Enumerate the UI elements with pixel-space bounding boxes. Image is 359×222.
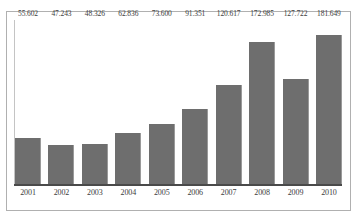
bar-rect	[249, 42, 275, 184]
x-axis-tick-label: 2005	[149, 188, 175, 197]
bar-group: 127.722	[283, 20, 309, 184]
bar-rect	[15, 138, 41, 184]
clipped-header-text	[8, 0, 208, 3]
bar-rect	[283, 79, 309, 184]
chart-page: 55.602 47.243 48.326 62.836 73.600	[0, 0, 359, 222]
bar-group: 172.985	[249, 20, 275, 184]
bar-group: 120.617	[216, 20, 242, 184]
bar-rect	[48, 145, 74, 184]
bar-group: 47.243	[48, 20, 74, 184]
x-axis-line	[14, 184, 342, 186]
bar-group: 73.600	[149, 20, 175, 184]
bar-value-label: 55.602	[18, 9, 38, 18]
bar-rect	[182, 109, 208, 184]
x-axis-labels: 2001 2002 2003 2004 2005 2006 2007 2008 …	[15, 188, 342, 206]
bar-value-label: 62.836	[118, 9, 138, 18]
x-axis-tick-label: 2008	[249, 188, 275, 197]
x-axis-tick-label: 2004	[115, 188, 141, 197]
bar-rect	[149, 124, 175, 184]
bar-group: 48.326	[82, 20, 108, 184]
bar-value-label: 48.326	[85, 9, 105, 18]
bar-group: 55.602	[15, 20, 41, 184]
bar-rect	[82, 144, 108, 184]
x-axis-tick-label: 2001	[15, 188, 41, 197]
bar-value-label: 73.600	[152, 9, 172, 18]
bar-series: 55.602 47.243 48.326 62.836 73.600	[15, 20, 342, 184]
bar-value-label: 47.243	[51, 9, 71, 18]
bar-value-label: 172.985	[250, 9, 274, 18]
x-axis-tick-label: 2007	[216, 188, 242, 197]
x-axis-tick-label: 2002	[48, 188, 74, 197]
bar-group: 181.649	[316, 20, 342, 184]
bar-rect	[216, 85, 242, 184]
bar-group: 91.351	[182, 20, 208, 184]
chart-frame: 55.602 47.243 48.326 62.836 73.600	[6, 11, 351, 211]
plot-area: 55.602 47.243 48.326 62.836 73.600	[7, 12, 350, 210]
bar-value-label: 91.351	[185, 9, 205, 18]
x-axis-tick-label: 2006	[182, 188, 208, 197]
bar-value-label: 120.617	[217, 9, 241, 18]
bar-value-label: 127.722	[284, 9, 308, 18]
x-axis-tick-label: 2010	[316, 188, 342, 197]
bar-rect	[316, 35, 342, 184]
bar-group: 62.836	[115, 20, 141, 184]
x-axis-tick-label: 2009	[283, 188, 309, 197]
bar-value-label: 181.649	[317, 9, 341, 18]
bar-rect	[115, 133, 141, 185]
x-axis-tick-label: 2003	[82, 188, 108, 197]
